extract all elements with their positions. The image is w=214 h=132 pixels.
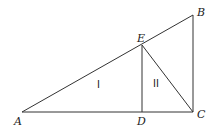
triangle-diagram: B E A D C I II (0, 0, 214, 132)
region-label-2: II (153, 78, 159, 89)
segment-ec (142, 45, 193, 112)
region-label-1: I (97, 79, 100, 90)
point-label-c: C (197, 108, 206, 121)
point-label-b: B (196, 6, 205, 19)
segment-ab (22, 15, 193, 112)
point-label-e: E (136, 32, 145, 45)
point-label-a: A (13, 115, 22, 128)
point-label-d: D (136, 115, 146, 128)
